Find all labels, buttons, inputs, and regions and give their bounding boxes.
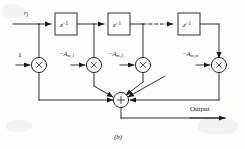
delay-label-1: z−1 — [60, 21, 68, 29]
figure-container: rj z−1 z−1 z−1 1 −Am,1 −Am,2 −Am,m Outpu… — [0, 0, 245, 149]
wire-ellipsis-diag-to-sum — [128, 76, 165, 97]
delay-exponent-m: −1 — [186, 21, 191, 26]
coefficient-subscript-m: m,m — [190, 53, 198, 58]
coefficient-label-2: −Am,2 — [108, 51, 123, 59]
input-signal-subscript: j — [27, 12, 28, 17]
delay-label-2: z−1 — [113, 21, 121, 29]
output-label: Output — [190, 106, 209, 113]
delay-exponent-1: −1 — [63, 21, 68, 26]
coefficient-subscript-1: m,1 — [67, 53, 74, 58]
delay-exponent-2: −1 — [116, 21, 121, 26]
wire-coef1-diag-to-sum — [94, 86, 113, 97]
coefficient-subscript-2: m,2 — [116, 53, 123, 58]
delay-label-m: z−1 — [183, 21, 191, 29]
signal-flow-graph — [0, 0, 245, 149]
input-signal-label: rj — [24, 10, 28, 17]
coefficient-label-m: −Am,m — [182, 51, 198, 59]
coefficient-label-1: −Am,1 — [59, 51, 74, 59]
gain-one-label: 1 — [18, 52, 22, 59]
figure-caption: (b) — [114, 134, 122, 141]
